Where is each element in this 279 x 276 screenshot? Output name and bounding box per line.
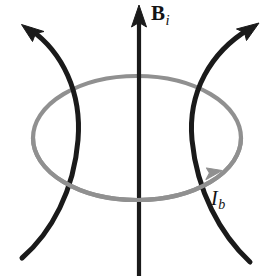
b-field-label: Bi [151,3,170,27]
loop-current-label: Ib [211,188,225,212]
b-field-label-subscript: i [165,12,170,28]
loop-current-label-symbol: I [211,187,218,209]
diagram-svg [0,0,279,276]
left-field-line-curve [22,30,79,258]
loop-current-label-subscript: b [218,197,226,212]
b-field-axis-group [132,5,147,276]
field-diagram-canvas: Bi Ib [0,0,279,276]
b-field-label-symbol: B [151,1,165,25]
right-field-line-group [191,23,259,262]
left-field-line-group [22,25,79,259]
